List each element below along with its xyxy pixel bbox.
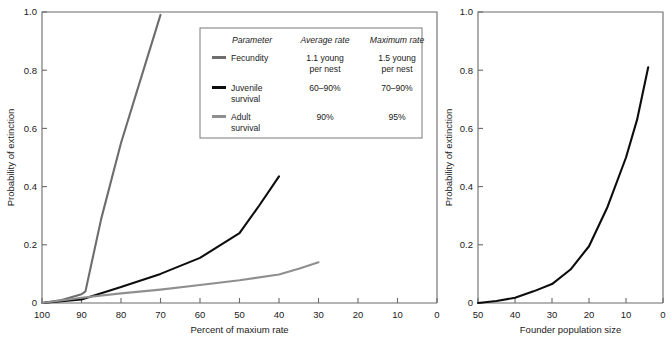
y-axis-title: Probability of extinction — [443, 109, 454, 207]
x-tick-label: 30 — [547, 309, 558, 320]
x-tick-label: 70 — [155, 309, 166, 320]
y-tick-label: 0.6 — [24, 123, 37, 134]
y-tick-label: 0.6 — [460, 123, 473, 134]
legend-maximum: 70–90% — [381, 83, 413, 93]
x-tick-label: 10 — [621, 309, 632, 320]
y-tick-label: 1.0 — [24, 6, 37, 17]
legend-average: 60–90% — [309, 83, 341, 93]
series-line-adult-survival — [42, 262, 319, 303]
x-tick-label: 10 — [392, 309, 403, 320]
legend-maximum: 1.5 young — [378, 53, 416, 63]
x-tick-label: 80 — [116, 309, 127, 320]
y-tick-label: 0.2 — [24, 239, 37, 250]
y-tick-label: 0 — [468, 297, 473, 308]
x-tick-label: 0 — [660, 309, 665, 320]
legend-average: 1.1 young — [306, 53, 344, 63]
legend-maximum: 95% — [388, 112, 406, 122]
y-tick-label: 0.2 — [460, 239, 473, 250]
y-tick-label: 0.4 — [460, 181, 473, 192]
y-tick-label: 0.8 — [24, 65, 37, 76]
legend-maximum-line2: per nest — [381, 64, 413, 74]
legend-header-parameter: Parameter — [232, 35, 273, 45]
x-axis-title: Percent of maxium rate — [190, 324, 288, 335]
y-tick-label: 1.0 — [460, 6, 473, 17]
figure-container: 100908070605040302010000.20.40.60.81.0Pe… — [0, 0, 671, 341]
series-line-extinction-probability — [478, 67, 648, 303]
legend-average-line2: per nest — [309, 64, 341, 74]
legend-parameter: Adult — [231, 112, 251, 122]
series-line-fecundity — [42, 15, 161, 303]
x-tick-label: 60 — [195, 309, 206, 320]
legend-parameter: Fecundity — [231, 53, 269, 63]
x-tick-label: 90 — [76, 309, 87, 320]
legend-header-maximum: Maximum rate — [370, 35, 425, 45]
plot-frame — [478, 12, 663, 303]
x-tick-label: 100 — [34, 309, 50, 320]
figure-svg: 100908070605040302010000.20.40.60.81.0Pe… — [0, 0, 671, 341]
x-tick-label: 0 — [434, 309, 439, 320]
legend-parameter-line2: survival — [231, 94, 260, 104]
x-tick-label: 40 — [510, 309, 521, 320]
x-tick-label: 50 — [234, 309, 245, 320]
x-tick-label: 50 — [473, 309, 484, 320]
legend-average: 90% — [316, 112, 334, 122]
legend-parameter: Juvenile — [231, 83, 263, 93]
series-line-juvenile-survival — [42, 176, 279, 303]
x-tick-label: 40 — [274, 309, 285, 320]
x-tick-label: 20 — [584, 309, 595, 320]
panel-right-panel — [478, 12, 663, 303]
x-tick-label: 20 — [353, 309, 364, 320]
y-tick-label: 0.4 — [24, 181, 37, 192]
y-axis-title: Probability of extinction — [5, 109, 16, 207]
y-tick-label: 0 — [32, 297, 37, 308]
x-tick-label: 30 — [313, 309, 324, 320]
x-axis-title: Founder population size — [520, 324, 621, 335]
y-tick-label: 0.8 — [460, 65, 473, 76]
legend-header-average: Average rate — [299, 35, 349, 45]
legend-parameter-line2: survival — [231, 123, 260, 133]
